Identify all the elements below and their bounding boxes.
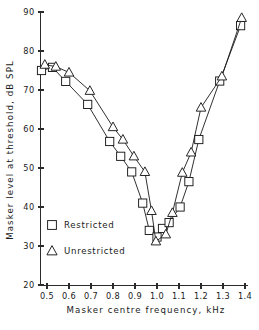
square-marker xyxy=(128,168,136,176)
x-tick-label: 0.7 xyxy=(84,291,98,301)
square-marker xyxy=(195,135,203,143)
y-tick-label: 50 xyxy=(23,163,34,173)
legend-label: Unrestricted xyxy=(64,246,125,256)
square-marker xyxy=(139,199,147,207)
series-unrestricted xyxy=(40,13,246,245)
y-axis: 2030405060708090 xyxy=(23,7,43,290)
x-axis-title: Masker centre frequency, kHz xyxy=(67,305,226,315)
square-marker xyxy=(62,77,70,85)
triangle-marker xyxy=(85,86,95,95)
legend-item-unrestricted: Unrestricted xyxy=(47,246,125,256)
triangle-marker xyxy=(186,147,196,156)
chart-legend: RestrictedUnrestricted xyxy=(47,220,125,256)
y-tick-label: 40 xyxy=(23,202,34,212)
triangle-marker xyxy=(64,67,74,76)
data-series-group xyxy=(37,13,246,245)
triangle-marker xyxy=(217,71,227,80)
x-tick-label: 1.3 xyxy=(216,291,230,301)
legend-item-restricted: Restricted xyxy=(48,220,115,230)
chart-figure: 2030405060708090 0.50.60.70.80.91.01.11.… xyxy=(0,0,259,330)
legend-label: Restricted xyxy=(64,220,114,230)
x-tick-label: 0.8 xyxy=(106,291,120,301)
x-tick-label: 1.0 xyxy=(150,291,164,301)
y-tick-label: 90 xyxy=(23,7,34,17)
y-tick-label: 60 xyxy=(23,124,34,134)
series-restricted xyxy=(37,22,244,242)
x-tick-label: 1.2 xyxy=(194,291,208,301)
triangle-marker xyxy=(129,151,139,160)
x-axis: 0.50.60.70.80.91.01.11.21.31.4 xyxy=(40,283,252,301)
axis-titles: Masker centre frequency, kHzMasker level… xyxy=(5,60,225,315)
masker-tuning-curve-plot: 2030405060708090 0.50.60.70.80.91.01.11.… xyxy=(0,0,259,330)
triangle-marker xyxy=(147,206,157,215)
x-tick-label: 0.5 xyxy=(40,291,54,301)
square-marker xyxy=(117,152,125,160)
triangle-marker xyxy=(237,13,247,22)
x-tick-label: 0.6 xyxy=(62,291,76,301)
triangle-marker xyxy=(196,103,206,112)
square-marker xyxy=(106,137,114,145)
triangle-marker xyxy=(47,246,57,255)
x-tick-label: 1.4 xyxy=(238,291,252,301)
square-marker xyxy=(176,203,184,211)
y-tick-label: 80 xyxy=(23,46,34,56)
x-tick-label: 0.9 xyxy=(128,291,142,301)
triangle-marker xyxy=(140,167,150,176)
y-tick-label: 20 xyxy=(23,280,34,290)
y-tick-label: 30 xyxy=(23,241,34,251)
square-marker xyxy=(145,226,153,234)
triangle-marker xyxy=(178,168,188,177)
series-line xyxy=(45,18,242,241)
square-marker xyxy=(84,100,92,108)
y-tick-label: 70 xyxy=(23,85,34,95)
square-marker xyxy=(48,221,57,230)
x-tick-label: 1.1 xyxy=(172,291,186,301)
triangle-marker xyxy=(108,122,118,131)
square-marker xyxy=(185,178,193,186)
y-axis-title: Masker level at threshold, dB SPL xyxy=(5,60,15,240)
